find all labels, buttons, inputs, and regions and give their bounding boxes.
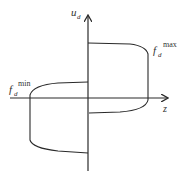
fd-max-label: f d max (153, 40, 177, 59)
svg-text:d: d (14, 90, 18, 98)
svg-text:d: d (158, 51, 162, 59)
svg-text:min: min (18, 79, 30, 88)
svg-text:d: d (77, 13, 81, 21)
svg-text:z: z (162, 103, 167, 114)
fd-max-curve (88, 43, 148, 113)
hysteresis-diagram: u d z f d max f d min (0, 0, 187, 177)
fd-min-curve (30, 82, 88, 153)
ud-axis-label: u d (71, 6, 81, 21)
svg-text:max: max (163, 40, 177, 49)
fd-min-label: f d min (9, 79, 30, 98)
z-axis-label: z (162, 103, 167, 114)
